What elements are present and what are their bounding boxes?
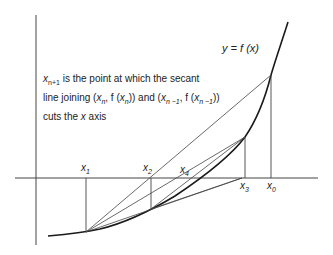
secant-note: xn+1 is the point at which the secant li… — [43, 71, 220, 124]
label-x3: x3 — [240, 181, 249, 193]
label-x4: x4 — [180, 165, 189, 177]
label-x1: x1 — [81, 163, 90, 175]
secant-x2-x3 — [151, 137, 245, 209]
secant-x2-to-x3-axis — [151, 178, 242, 209]
label-x0: x0 — [267, 181, 276, 193]
curve-label: y = f (x) — [222, 43, 259, 54]
secant-x1-x3 — [86, 137, 245, 232]
secant-method-diagram — [0, 0, 333, 255]
note-line-1: xn+1 is the point at which the secant — [43, 71, 220, 90]
note-line-2: line joining (xn, f (xn)) and (xn −1, f … — [43, 90, 220, 109]
note-line-3: cuts the x axis — [43, 109, 220, 124]
label-x2: x2 — [143, 163, 152, 175]
